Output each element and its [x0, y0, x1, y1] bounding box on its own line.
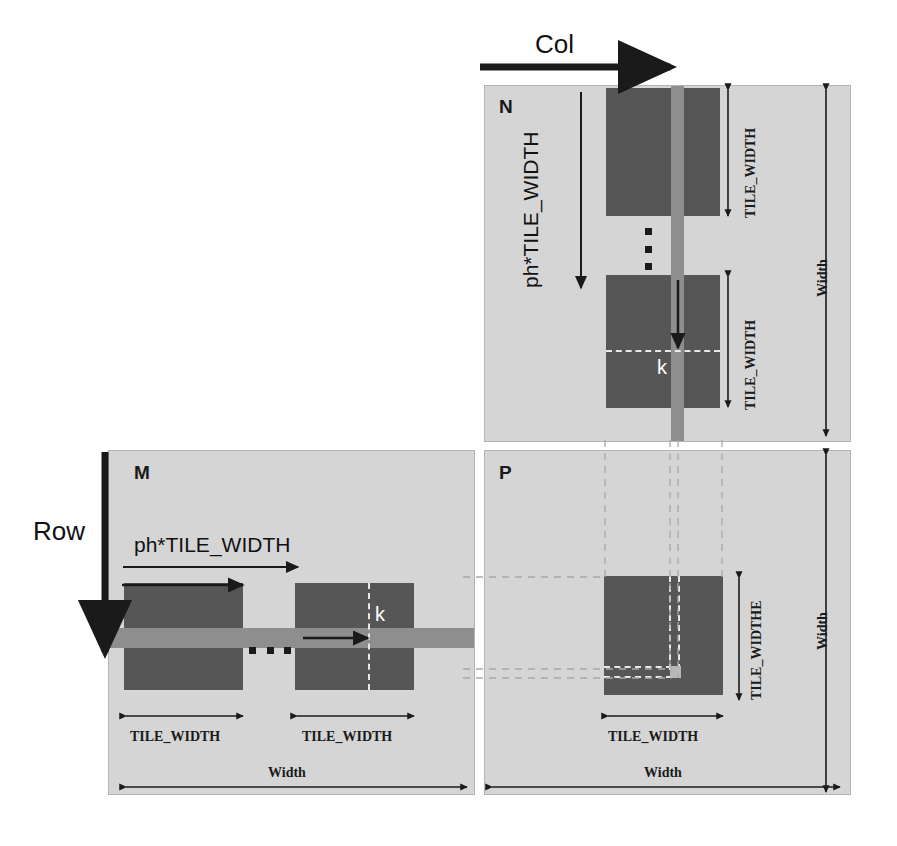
- panel-n-tile-current: [606, 275, 720, 408]
- panel-p-element-row-marker-bottom: [604, 676, 672, 678]
- panel-n-column-band: [671, 86, 684, 441]
- panel-m-stride-label: ph*TILE_WIDTH: [134, 534, 290, 555]
- panel-n-row-marker: [606, 350, 720, 352]
- panel-m-column-marker: [368, 583, 370, 690]
- panel-p-element-column-marker-right: [678, 576, 680, 670]
- panel-n-k-label: k: [657, 357, 667, 377]
- panel-n-tile-width-top-label: TILE_WIDTH: [744, 128, 758, 218]
- panel-n-stride-label: ph*TILE_WIDTH: [520, 132, 541, 288]
- panel-n-width-label: Width: [816, 259, 830, 297]
- panel-n-tile-first: [606, 88, 720, 216]
- panel-n-ellipsis: [645, 228, 652, 270]
- panel-p-tile-width-vertical-label: TILE_WIDTHE: [750, 600, 764, 700]
- panel-m-tile-width-left-label: TILE_WIDTH: [130, 730, 220, 744]
- panel-m-title: M: [134, 463, 150, 482]
- panel-m-width-label: Width: [268, 766, 306, 780]
- panel-m-ellipsis: [249, 647, 291, 654]
- panel-n-tile-width-bottom-label: TILE_WIDTH: [744, 320, 758, 410]
- panel-p-tile-width-horizontal-label: TILE_WIDTH: [608, 730, 698, 744]
- panel-p-element-row-marker-top: [604, 666, 672, 668]
- panel-p-width-vertical-label: Width: [816, 612, 830, 650]
- panel-m-k-label: k: [375, 604, 385, 624]
- row-axis-label: Row: [33, 518, 85, 544]
- panel-m-tile-width-right-label: TILE_WIDTH: [302, 730, 392, 744]
- panel-n-title: N: [499, 97, 513, 116]
- figure-canvas: Col N k ph*TILE_WIDTH TILE_WIDTH TILE_WI…: [0, 0, 897, 846]
- panel-p-title: P: [499, 463, 512, 482]
- panel-p-element-column-marker-left: [669, 576, 671, 670]
- panel-p-result-element: [670, 666, 681, 678]
- col-axis-label: Col: [535, 31, 574, 57]
- panel-m-row-band: [110, 628, 474, 648]
- panel-p-width-horizontal-label: Width: [644, 766, 682, 780]
